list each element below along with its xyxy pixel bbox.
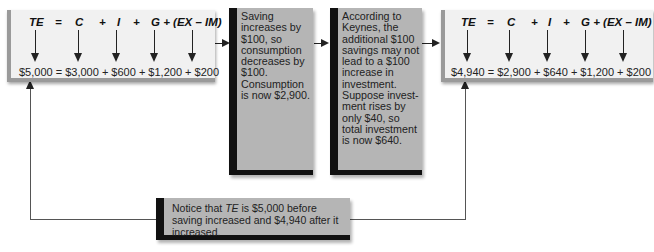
note-text-pre: Notice that bbox=[172, 202, 225, 214]
down-arrow-icon bbox=[192, 30, 193, 60]
values-before: $5,000 = $3,000 + $600 + $1,200 + $200 bbox=[19, 66, 219, 78]
i-label: I bbox=[548, 16, 551, 28]
te-label: TE bbox=[461, 16, 476, 28]
step-saving-text: Saving increases by $100, so consumption… bbox=[241, 10, 310, 101]
right-arrow-icon bbox=[321, 39, 329, 47]
step-keynes-box: According to Keynes, the additional $100… bbox=[330, 8, 422, 175]
te-label: TE bbox=[29, 16, 44, 28]
down-arrow-icon bbox=[116, 30, 117, 60]
loop-right-vertical bbox=[465, 88, 466, 220]
plus-sign: + bbox=[99, 16, 106, 28]
plus-sign: + bbox=[531, 16, 538, 28]
c-label: C bbox=[75, 16, 83, 28]
down-arrow-icon bbox=[547, 30, 548, 60]
g-netexports-label: G + (EX – IM) bbox=[151, 16, 222, 28]
down-arrow-icon bbox=[78, 30, 79, 60]
equals-sign: = bbox=[55, 16, 62, 28]
down-arrow-icon bbox=[585, 30, 586, 60]
plus-sign: + bbox=[133, 16, 140, 28]
down-arrow-icon bbox=[154, 30, 155, 60]
plus-sign: + bbox=[563, 16, 570, 28]
values-after: $4,940 = $2,900 + $640 + $1,200 + $200 bbox=[451, 66, 651, 78]
g-netexports-label: G + (EX – IM) bbox=[581, 16, 652, 28]
note-box: Notice that TE is $5,000 before saving i… bbox=[156, 198, 350, 240]
right-arrow-icon bbox=[432, 39, 440, 47]
down-arrow-icon bbox=[509, 30, 510, 60]
equals-sign: = bbox=[487, 16, 494, 28]
step-keynes-text: According to Keynes, the additional $100… bbox=[342, 10, 419, 146]
down-arrow-icon bbox=[467, 30, 468, 60]
down-arrow-icon bbox=[35, 30, 36, 60]
note-te: TE bbox=[225, 202, 238, 214]
equation-before-box: TE = C + I + G + (EX – IM) $5,000 = $3,0… bbox=[7, 10, 215, 82]
step-saving-box: Saving increases by $100, so consumption… bbox=[229, 8, 313, 175]
down-arrow-icon bbox=[623, 30, 624, 60]
equation-after-box: TE = C + I + G + (EX – IM) $4,940 = $2,9… bbox=[441, 10, 653, 82]
loop-left-vertical bbox=[30, 88, 31, 219]
c-label: C bbox=[507, 16, 515, 28]
i-label: I bbox=[117, 16, 120, 28]
